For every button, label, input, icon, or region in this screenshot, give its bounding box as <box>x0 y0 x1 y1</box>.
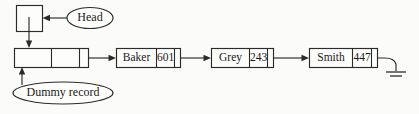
head-label: Head <box>67 8 113 29</box>
node-name-text: Baker <box>123 51 151 63</box>
dummy-record-label-text: Dummy record <box>27 85 100 99</box>
list-node-baker: Baker 601 <box>117 49 181 68</box>
dummy-label-arrow <box>19 67 25 85</box>
node-name-text: Grey <box>219 51 242 64</box>
head-label-text: Head <box>77 10 102 24</box>
list-node-grey: Grey 243 <box>212 49 274 68</box>
head-label-arrow <box>43 15 68 21</box>
dummy-to-baker-arrow <box>89 55 117 61</box>
node-number-text: 243 <box>250 51 268 63</box>
dummy-record-label: Dummy record <box>13 82 113 104</box>
list-node-smith: Smith 447 <box>310 49 378 68</box>
baker-to-grey-arrow <box>181 55 212 61</box>
node-number-text: 447 <box>353 51 371 63</box>
node-number-text: 601 <box>157 51 175 63</box>
diagram-canvas: Head Dummy record <box>0 0 419 114</box>
grey-to-smith-arrow <box>274 55 310 61</box>
dummy-record-node <box>15 49 89 68</box>
linked-list-diagram: Head Dummy record <box>0 0 419 114</box>
null-ground-symbol <box>378 58 407 76</box>
node-name-text: Smith <box>317 51 345 63</box>
